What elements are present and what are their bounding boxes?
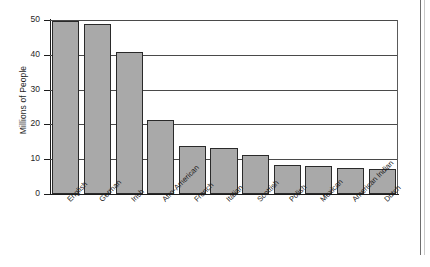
y-tick-label: 20 <box>16 119 40 128</box>
plot-frame-right <box>397 20 398 194</box>
bar-chart: Millions of People 01020304050 EnglishGe… <box>0 0 430 267</box>
page-edge-artifact-soft <box>424 0 425 255</box>
gridline-50 <box>50 20 398 21</box>
y-tick-mark <box>44 194 50 195</box>
y-tick-label: 30 <box>16 85 40 94</box>
page-edge-artifact <box>420 0 421 255</box>
bar <box>116 52 143 194</box>
y-tick-label: 50 <box>16 15 40 24</box>
y-tick-label: 0 <box>16 189 40 198</box>
y-tick-label: 40 <box>16 50 40 59</box>
plot-area <box>50 20 398 194</box>
bar <box>147 120 174 194</box>
bar <box>52 21 79 194</box>
bar <box>84 24 111 194</box>
y-tick-label: 10 <box>16 154 40 163</box>
